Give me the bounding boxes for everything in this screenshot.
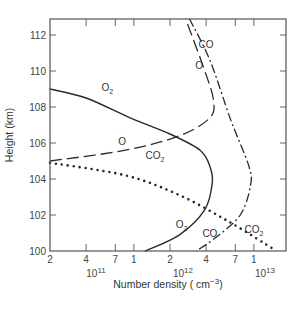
curve-label: O2 (101, 82, 113, 95)
x-tick-label: 7 (113, 254, 119, 265)
curve-label: CO2 (146, 150, 165, 163)
y-tick-label: 108 (29, 102, 46, 113)
y-tick-labels: 100102104106108110112 (29, 30, 46, 257)
curve-label: O (195, 60, 203, 71)
x-tick-label: 7 (233, 254, 239, 265)
y-tick-label: 100 (29, 246, 46, 257)
x-tick-labels: 24712471101110121013 (47, 254, 275, 279)
y-axis-title: Height (km) (3, 108, 15, 162)
curve-label: CO (199, 39, 214, 50)
plot-frame (50, 19, 286, 251)
x-decade-label: 1011 (86, 266, 106, 279)
curve-label: CO (202, 228, 217, 239)
axis-ticks (50, 19, 286, 251)
x-tick-label: 2 (47, 254, 53, 265)
density-chart: 100102104106108110112 247124711011101210… (0, 0, 304, 309)
x-tick-label: 1 (131, 254, 137, 265)
x-decade-label: 1013 (255, 266, 276, 279)
y-tick-label: 102 (29, 210, 46, 221)
curves (50, 19, 274, 251)
y-tick-label: 106 (29, 138, 46, 149)
curve-co2 (50, 163, 274, 249)
x-tick-label: 2 (167, 254, 173, 265)
curve-labels: O2OCO2COOO2COCO2 (101, 39, 263, 239)
x-axis-title: Number density ( cm−3) (113, 277, 222, 290)
curve-o (50, 19, 214, 161)
curve-o2 (50, 89, 213, 251)
y-tick-label: 110 (30, 66, 46, 77)
curve-label: CO2 (244, 224, 263, 237)
x-tick-label: 4 (83, 254, 89, 265)
y-tick-label: 104 (29, 174, 46, 185)
x-tick-label: 1 (251, 254, 257, 265)
curve-label: O2 (176, 219, 188, 232)
curve-label: O (118, 136, 126, 147)
x-tick-label: 4 (203, 254, 209, 265)
y-tick-label: 112 (30, 30, 46, 41)
